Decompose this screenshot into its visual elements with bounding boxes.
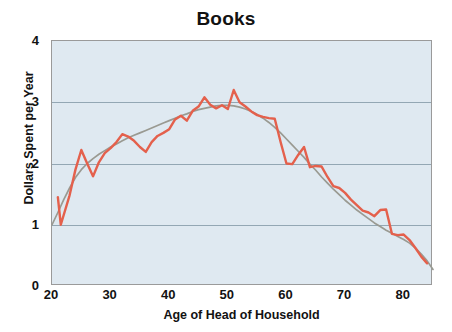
page-title: Books [0,8,452,30]
x-tick-label: 60 [278,288,292,301]
x-tick-label: 50 [220,288,234,301]
x-tick-label: 30 [102,288,116,301]
y-axis-title: Dollars Spent per Year [22,23,36,253]
x-axis-tick-labels: 20304050607080 [0,288,452,308]
x-axis-title: Age of Head of Household [51,308,432,322]
x-tick-label: 40 [161,288,175,301]
chart-figure: Books 01234 20304050607080 Dollars Spent… [0,0,452,332]
plot-area [51,40,432,285]
series-line-observed [58,90,427,263]
series-line-smoothed-trend [52,105,433,269]
series-layer [52,41,433,286]
x-tick-label: 80 [395,288,409,301]
x-tick-label: 70 [337,288,351,301]
x-tick-label: 20 [44,288,58,301]
